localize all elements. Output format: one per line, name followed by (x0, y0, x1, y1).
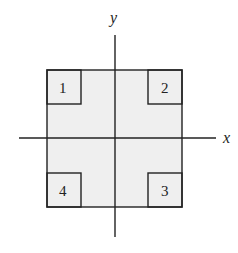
region-label-1: 1 (59, 80, 67, 96)
region-label-3: 3 (161, 183, 169, 199)
region-label-4: 4 (59, 183, 67, 199)
coordinate-diagram: y x 1 2 3 4 (0, 0, 238, 253)
y-axis-label: y (108, 9, 118, 27)
x-axis-label: x (222, 129, 230, 146)
region-label-2: 2 (161, 80, 169, 96)
